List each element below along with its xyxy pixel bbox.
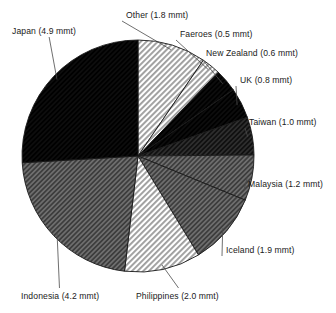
leader-line-philippines [162, 265, 179, 288]
leader-line-japan [49, 37, 57, 80]
pie-label-iceland: Iceland (1.9 mmt) [226, 246, 295, 255]
pie-slices-group [22, 40, 254, 272]
pie-label-new-zealand: New Zealand (0.6 mmt) [206, 49, 298, 58]
pie-chart: Japan (4.9 mmt)Other (1.8 mmt)Faeroes (0… [0, 0, 336, 313]
pie-slice [22, 156, 138, 271]
pie-label-indonesia: Indonesia (4.2 mmt) [21, 292, 99, 301]
pie-label-other: Other (1.8 mmt) [126, 11, 188, 20]
pie-slice [22, 40, 138, 163]
pie-label-philippines: Philippines (2.0 mmt) [136, 292, 219, 301]
pie-label-faeroes: Faeroes (0.5 mmt) [180, 30, 252, 39]
pie-label-taiwan: Taiwan (1.0 mmt) [249, 118, 317, 127]
pie-label-japan: Japan (4.9 mmt) [12, 27, 76, 36]
pie-label-malaysia: Malaysia (1.2 mmt) [248, 180, 323, 189]
pie-label-uk: UK (0.8 mmt) [240, 76, 292, 85]
pie-chart-canvas [0, 0, 336, 313]
